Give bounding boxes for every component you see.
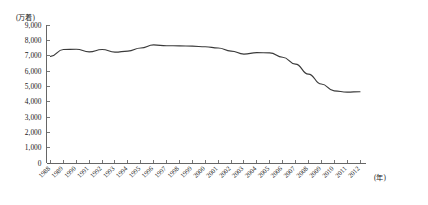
x-axis-tick-label: 2008 — [295, 164, 310, 179]
x-axis-tick-label: 2009 — [308, 164, 323, 179]
x-axis-tick-label: 1996 — [140, 164, 155, 179]
y-axis-tick-label: 4,000 — [25, 97, 42, 106]
x-axis-tick-label: 2000 — [192, 164, 207, 179]
x-axis-tick-label: 1989 — [50, 164, 65, 179]
x-axis-tick-label: 2003 — [230, 164, 245, 179]
y-axis-tick-label: 1,000 — [25, 143, 42, 152]
y-axis-tick-labels: 01,0002,0003,0004,0005,0006,0007,0008,00… — [25, 21, 42, 168]
x-axis-tick-label: 2002 — [217, 165, 231, 179]
chart-canvas: (万着) 01,0002,0003,0004,0005,0006,0007,00… — [0, 0, 428, 205]
x-axis-tick-label: 1997 — [153, 164, 168, 179]
y-axis-tick-label: 2,000 — [25, 128, 42, 137]
x-axis-tick-label: 1994 — [114, 164, 129, 179]
y-axis-tick-label: 3,000 — [25, 113, 42, 122]
x-axis-tick-label: 2001 — [205, 165, 219, 179]
x-axis-tick-label: 1995 — [127, 164, 142, 179]
x-axis-tick-label: 1992 — [89, 165, 103, 179]
x-axis-tick-label: 1999 — [179, 164, 194, 179]
x-axis-tick-label: 2005 — [256, 164, 271, 179]
x-axis-tick-label: 1993 — [101, 164, 116, 179]
x-axis-tick-label: 1991 — [76, 165, 90, 179]
x-axis-tick-label: 2006 — [269, 164, 284, 179]
y-axis-tick-label: 8,000 — [25, 36, 42, 45]
x-axis-unit-text: (年) — [374, 173, 386, 182]
line-chart: (万着) 01,0002,0003,0004,0005,0006,0007,00… — [0, 0, 428, 205]
y-axis-tick-label: 5,000 — [25, 82, 42, 91]
x-axis-tick-label: 1998 — [166, 164, 181, 179]
x-axis-tick-label: 2010 — [321, 164, 336, 179]
y-axis-tick-marks — [47, 25, 51, 163]
x-axis-tick-label: 1990 — [63, 164, 78, 179]
y-axis-tick-label: 9,000 — [25, 21, 42, 30]
x-axis-tick-label: 2007 — [282, 164, 297, 179]
x-axis-tick-label: 2004 — [243, 164, 258, 179]
x-axis-tick-label: 2011 — [334, 165, 348, 179]
y-axis-tick-label: 6,000 — [25, 67, 42, 76]
y-axis-tick-label: 0 — [38, 159, 42, 168]
data-series-line — [51, 45, 361, 92]
x-axis-tick-labels: 1988198919901991199219931994199519961997… — [37, 164, 361, 179]
y-axis-tick-label: 7,000 — [25, 51, 42, 60]
x-axis-tick-label: 2012 — [346, 165, 360, 179]
x-axis-unit-label: (年) — [374, 173, 386, 182]
x-axis-tick-marks — [51, 160, 361, 164]
